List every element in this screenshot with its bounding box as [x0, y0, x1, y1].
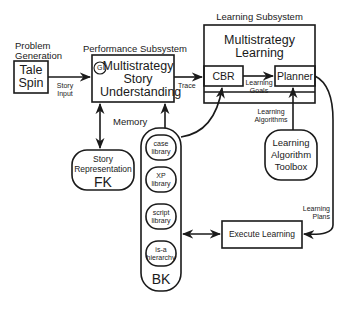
learning-subsystem-title: Learning Subsystem [204, 12, 315, 22]
learning-goals-label: LearningGoals [244, 79, 274, 95]
tale-spin-text: TaleSpin [14, 64, 48, 90]
is-a-hierarchy: is-ahierarchy [144, 246, 178, 262]
learning-text: MultistrategyLearning [204, 34, 315, 60]
cbr-label: CBR [204, 71, 243, 82]
learning-algorithms-label: LearningAlgorithms [250, 108, 292, 124]
memory-label: Memory [113, 117, 147, 127]
trace-label: Trace [178, 82, 196, 89]
xp-library: XPlibrary [146, 172, 176, 188]
learning-plans-label: LearningPlans [300, 205, 330, 221]
bk-label: BK [141, 272, 181, 286]
story-representation-text: StoryRepresentation [72, 154, 134, 174]
performance-text: MultistrategyStoryUnderstanding [100, 60, 176, 99]
story-input-label: StoryInput [50, 82, 80, 98]
case-library: caselibrary [146, 140, 176, 156]
performance-subsystem-title: Performance Subsystem [83, 44, 187, 54]
script-library: scriptlibrary [146, 209, 176, 225]
problem-generation-label: ProblemGeneration [15, 41, 62, 60]
fk-label: FK [72, 175, 134, 189]
toolbox-text: LearningAlgorithmToolbox [265, 137, 317, 173]
execute-learning-label: Execute Learning [222, 230, 302, 239]
planner-label: Planner [275, 71, 315, 82]
